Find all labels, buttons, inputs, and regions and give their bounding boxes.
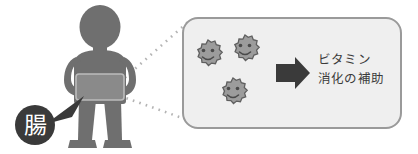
person-leg-right [104,100,122,140]
microbe-eye-right [211,49,215,53]
person-foot-right [103,140,132,148]
person-leg-left [78,100,96,140]
microbe-eye-left [227,87,231,91]
benefit-line-vitamin: ビタミン [318,50,404,69]
benefits-text-block: ビタミン 消化の補助 [318,50,404,88]
illustration-canvas: 腸 ビタミン 消化の補助 [0,0,418,154]
gut-badge-circle [15,105,55,145]
standing-person-pictogram [64,5,136,148]
microbe-eye-left [239,44,243,48]
benefit-line-digestion: 消化の補助 [318,69,404,88]
microbe-eye-right [248,44,252,48]
person-foot-left [68,140,97,148]
connector-line-lower [120,96,188,120]
person-head [80,5,121,49]
person-abdomen-highlight [76,74,124,100]
microbe-eye-left [202,49,206,53]
microbe-eye-right [236,87,240,91]
